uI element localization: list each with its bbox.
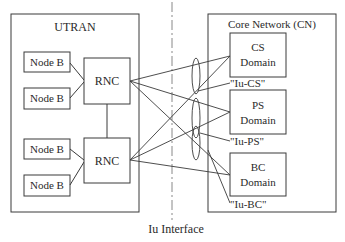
link-rnc1-ps — [130, 81, 230, 112]
node-b-label-1: Node B — [30, 56, 64, 68]
bundle-ellipse-cs — [192, 58, 200, 94]
iu-ps-label: "Iu-PS" — [230, 135, 264, 147]
link-rnc1-bc — [130, 81, 230, 175]
link-rnc1-cs — [130, 56, 230, 81]
iu-interface-caption: Iu Interface — [148, 222, 204, 236]
node-b-label-2: Node B — [30, 92, 64, 104]
leader-iu-bc — [208, 150, 230, 203]
link-nodeb3-rnc2 — [70, 149, 84, 160]
node-b-label-3: Node B — [30, 143, 64, 155]
leader-iu-ps — [200, 133, 230, 141]
ps-domain-box — [230, 90, 286, 134]
rnc-label-2: RNC — [95, 154, 120, 168]
ps-domain-line2: Domain — [240, 114, 276, 126]
ps-domain-line1: PS — [252, 99, 264, 111]
link-rnc2-cs — [130, 56, 230, 160]
link-nodeb4-rnc2 — [70, 162, 84, 185]
utran-group: UTRAN Node B Node B Node B Node B RNC RN… — [11, 14, 139, 212]
core-network-title: Core Network (CN) — [228, 18, 316, 31]
iu-bc-label: "Iu-BC" — [230, 198, 266, 210]
link-nodeb2-rnc1 — [70, 82, 84, 98]
node-b-label-4: Node B — [30, 179, 64, 191]
link-rnc2-ps — [130, 112, 230, 160]
cs-domain-line1: CS — [251, 41, 264, 53]
bc-domain-box — [230, 153, 286, 196]
bc-domain-line1: BC — [251, 161, 266, 173]
iu-interface-diagram: UTRAN Node B Node B Node B Node B RNC RN… — [0, 0, 345, 242]
iu-links — [130, 56, 230, 203]
link-nodeb1-rnc1 — [70, 63, 84, 80]
rnc-label-1: RNC — [95, 74, 120, 88]
utran-title: UTRAN — [54, 20, 96, 34]
cs-domain-box — [230, 33, 286, 77]
bc-domain-line2: Domain — [240, 176, 276, 188]
iu-cs-label: "Iu-CS" — [230, 77, 265, 89]
cs-domain-line2: Domain — [240, 56, 276, 68]
